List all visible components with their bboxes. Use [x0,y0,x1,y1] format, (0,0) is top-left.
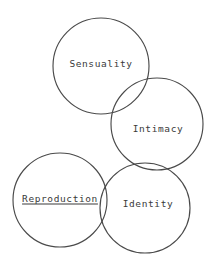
label-intimacy: Intimacy [133,123,184,134]
label-reproduction: Reproduction [22,193,98,204]
venn-circles-canvas [0,0,217,263]
label-identity: Identity [123,198,174,209]
label-sensuality: Sensuality [69,58,132,69]
venn-diagram: Sensuality Intimacy Reproduction Identit… [0,0,217,263]
